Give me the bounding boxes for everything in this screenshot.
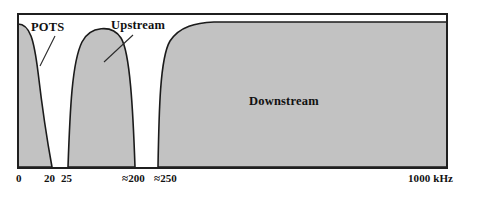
axis-tick-1000: 1000 kHz — [408, 172, 453, 184]
axis-tick-200: ≈200 — [122, 172, 145, 184]
upstream-band-shape — [68, 29, 135, 167]
axis-tick-0: 0 — [16, 172, 22, 184]
axis-tick-20: 20 — [44, 172, 55, 184]
axis-tick-25: 25 — [61, 172, 72, 184]
pots-leader-line — [40, 36, 55, 66]
upstream-band-label: Upstream — [111, 18, 165, 33]
pots-band-shape — [18, 24, 52, 167]
pots-band-label: POTS — [31, 20, 64, 35]
axis-tick-250: ≈250 — [154, 172, 177, 184]
dsl-spectrum-figure: POTS Upstream Downstream 0 20 25 ≈200 ≈2… — [0, 0, 477, 202]
downstream-band-label: Downstream — [249, 94, 319, 109]
